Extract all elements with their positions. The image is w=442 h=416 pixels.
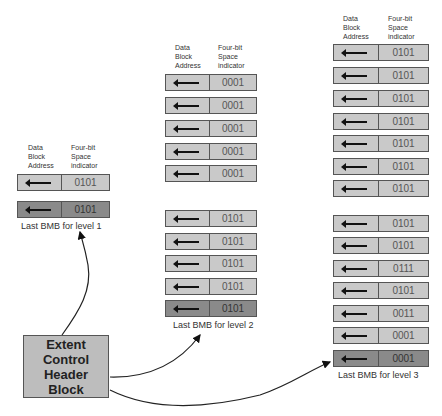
arrow-to-level1 [62,232,89,335]
connector-arrows [0,0,442,416]
arrow-to-level2 [110,335,200,377]
bmb-diagram: Data Block Address Four-bit Space indica… [0,0,442,416]
arrow-to-level3 [110,362,330,406]
